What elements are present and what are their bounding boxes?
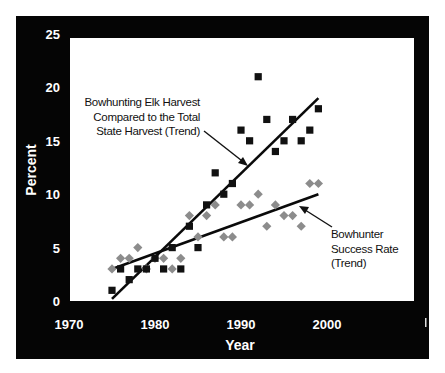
y-axis-title: Percent [23,144,39,196]
scatter-chart: 0510152025 1970198019902000 Percent Year… [0,0,445,373]
elk-harvest-square [229,180,236,187]
y-tick-label: 10 [46,187,60,202]
y-axis-ticks: 0510152025 [46,27,60,309]
x-tick-label: 1980 [141,317,170,332]
elk-harvest-square [289,116,296,123]
elk-harvest-square [117,265,124,272]
elk-harvest-square [306,127,313,134]
x-tick-label: 1970 [55,317,84,332]
elk-harvest-square [194,244,201,251]
elk-harvest-annotation: Bowhunting Elk HarvestCompared to the To… [85,96,202,137]
y-tick-label: 0 [53,294,60,309]
x-tick-label: 1990 [227,317,256,332]
elk-harvest-square [203,201,210,208]
elk-harvest-square [108,287,115,294]
x-axis-title: Year [225,337,255,353]
elk-harvest-square [298,137,305,144]
elk-harvest-square [263,116,270,123]
y-tick-label: 5 [53,241,60,256]
x-tick-label: 2000 [313,317,342,332]
elk-harvest-square [246,137,253,144]
y-tick-label: 20 [46,80,60,95]
elk-harvest-square [160,265,167,272]
x-axis-ticks: 1970198019902000 [55,317,342,332]
elk-harvest-square [255,73,262,80]
elk-harvest-square [134,265,141,272]
elk-harvest-square [186,223,193,230]
y-tick-label: 25 [46,27,60,42]
elk-harvest-square [212,169,219,176]
elk-harvest-square [177,265,184,272]
elk-harvest-square [126,276,133,283]
elk-harvest-square [280,137,287,144]
elk-harvest-square [143,265,150,272]
elk-harvest-square [315,105,322,112]
elk-harvest-square [169,244,176,251]
elk-harvest-square [237,127,244,134]
y-tick-label: 15 [46,134,60,149]
elk-harvest-square [151,255,158,262]
elk-harvest-square [272,148,279,155]
elk-harvest-square [220,191,227,198]
stray-mark [425,318,427,327]
